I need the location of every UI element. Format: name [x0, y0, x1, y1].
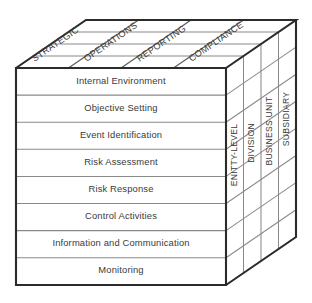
row-label-objective-setting: Objective Setting	[84, 102, 157, 113]
row-label-control-activities: Control Activities	[85, 210, 157, 221]
side-label-entity-level: ENITTY-LEVEL	[229, 124, 239, 186]
row-label-information-and-communication: Information and Communication	[52, 237, 189, 248]
cube-canvas: STRATEGIC OPERATIONS REPORTING COMPLIANC…	[0, 0, 312, 303]
side-label-division: DIVISION	[246, 123, 256, 163]
row-label-monitoring: Monitoring	[98, 264, 143, 275]
row-label-risk-assessment: Risk Assessment	[84, 156, 158, 167]
side-label-business-unit: BUSINESS UNIT	[264, 96, 274, 166]
row-label-event-identification: Event Identification	[80, 129, 162, 140]
side-label-subsidiary: SUBSIDIARY	[281, 92, 291, 146]
row-label-risk-response: Risk Response	[89, 183, 154, 194]
coso-erm-cube-diagram: STRATEGIC OPERATIONS REPORTING COMPLIANC…	[0, 0, 312, 303]
row-label-internal-environment: Internal Environment	[76, 75, 166, 86]
